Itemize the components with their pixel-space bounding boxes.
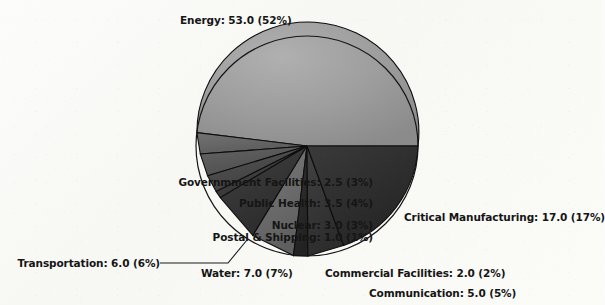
slice-label-nuclear: Nuclear: 3.0 (3%) bbox=[272, 219, 373, 231]
slice-label-transportation: Transportation: 6.0 (6%) bbox=[18, 257, 160, 269]
slice-label-governmment-facilities: Governmment Facilities: 2.5 (3%) bbox=[178, 176, 373, 188]
transportation-leader-line bbox=[160, 240, 247, 263]
slice-label-energy: Energy: 53.0 (52%) bbox=[180, 14, 292, 26]
slice-label-public-health: Public Health: 3.5 (4%) bbox=[239, 197, 373, 209]
slice-label-communication: Communication: 5.0 (5%) bbox=[369, 287, 516, 299]
slice-label-postal-shipping: Postal & Shipping: 1.0 (1%) bbox=[213, 231, 373, 243]
pie-slice-energy bbox=[197, 22, 419, 146]
slice-label-water: Water: 7.0 (7%) bbox=[201, 267, 293, 279]
slice-label-commercial-facilities: Commercial Facilities: 2.0 (2%) bbox=[325, 267, 505, 279]
slice-label-critical-manufacturing: Critical Manufacturing: 17.0 (17%) bbox=[404, 211, 605, 223]
